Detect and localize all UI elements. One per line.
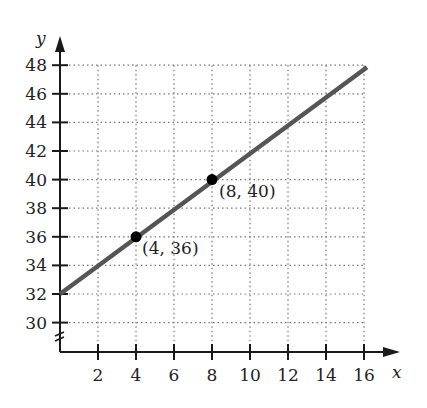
y-tick-label: 48 (25, 55, 47, 75)
y-axis-label: y (35, 28, 46, 48)
y-tick-label: 34 (25, 255, 47, 275)
y-tick-label: 40 (25, 170, 47, 190)
y-tick-label: 44 (25, 112, 47, 132)
data-point (207, 174, 218, 185)
line-chart: 24681012141630323436384042444648 y x (4,… (0, 0, 427, 408)
x-tick-label: 8 (207, 365, 218, 385)
y-tick-label: 46 (25, 84, 47, 104)
point-label-a: (4, 36) (142, 238, 199, 258)
y-tick-label: 30 (25, 313, 47, 333)
x-tick-label: 4 (131, 365, 142, 385)
x-axis-arrow-icon (383, 347, 400, 357)
x-axis-label: x (392, 362, 402, 382)
y-tick-label: 42 (25, 141, 47, 161)
y-tick-label: 38 (25, 198, 47, 218)
y-axis-arrow-icon (55, 36, 65, 52)
x-tick-label: 10 (239, 365, 261, 385)
y-tick-label: 36 (25, 227, 47, 247)
data-point (131, 231, 142, 242)
x-tick-label: 2 (93, 365, 104, 385)
ticks: 24681012141630323436384042444648 (25, 55, 374, 385)
y-tick-label: 32 (25, 284, 47, 304)
x-tick-label: 12 (277, 365, 299, 385)
grid (60, 65, 364, 352)
point-label-b: (8, 40) (219, 181, 276, 201)
x-tick-label: 14 (315, 365, 337, 385)
x-tick-label: 6 (169, 365, 180, 385)
x-tick-label: 16 (353, 365, 375, 385)
